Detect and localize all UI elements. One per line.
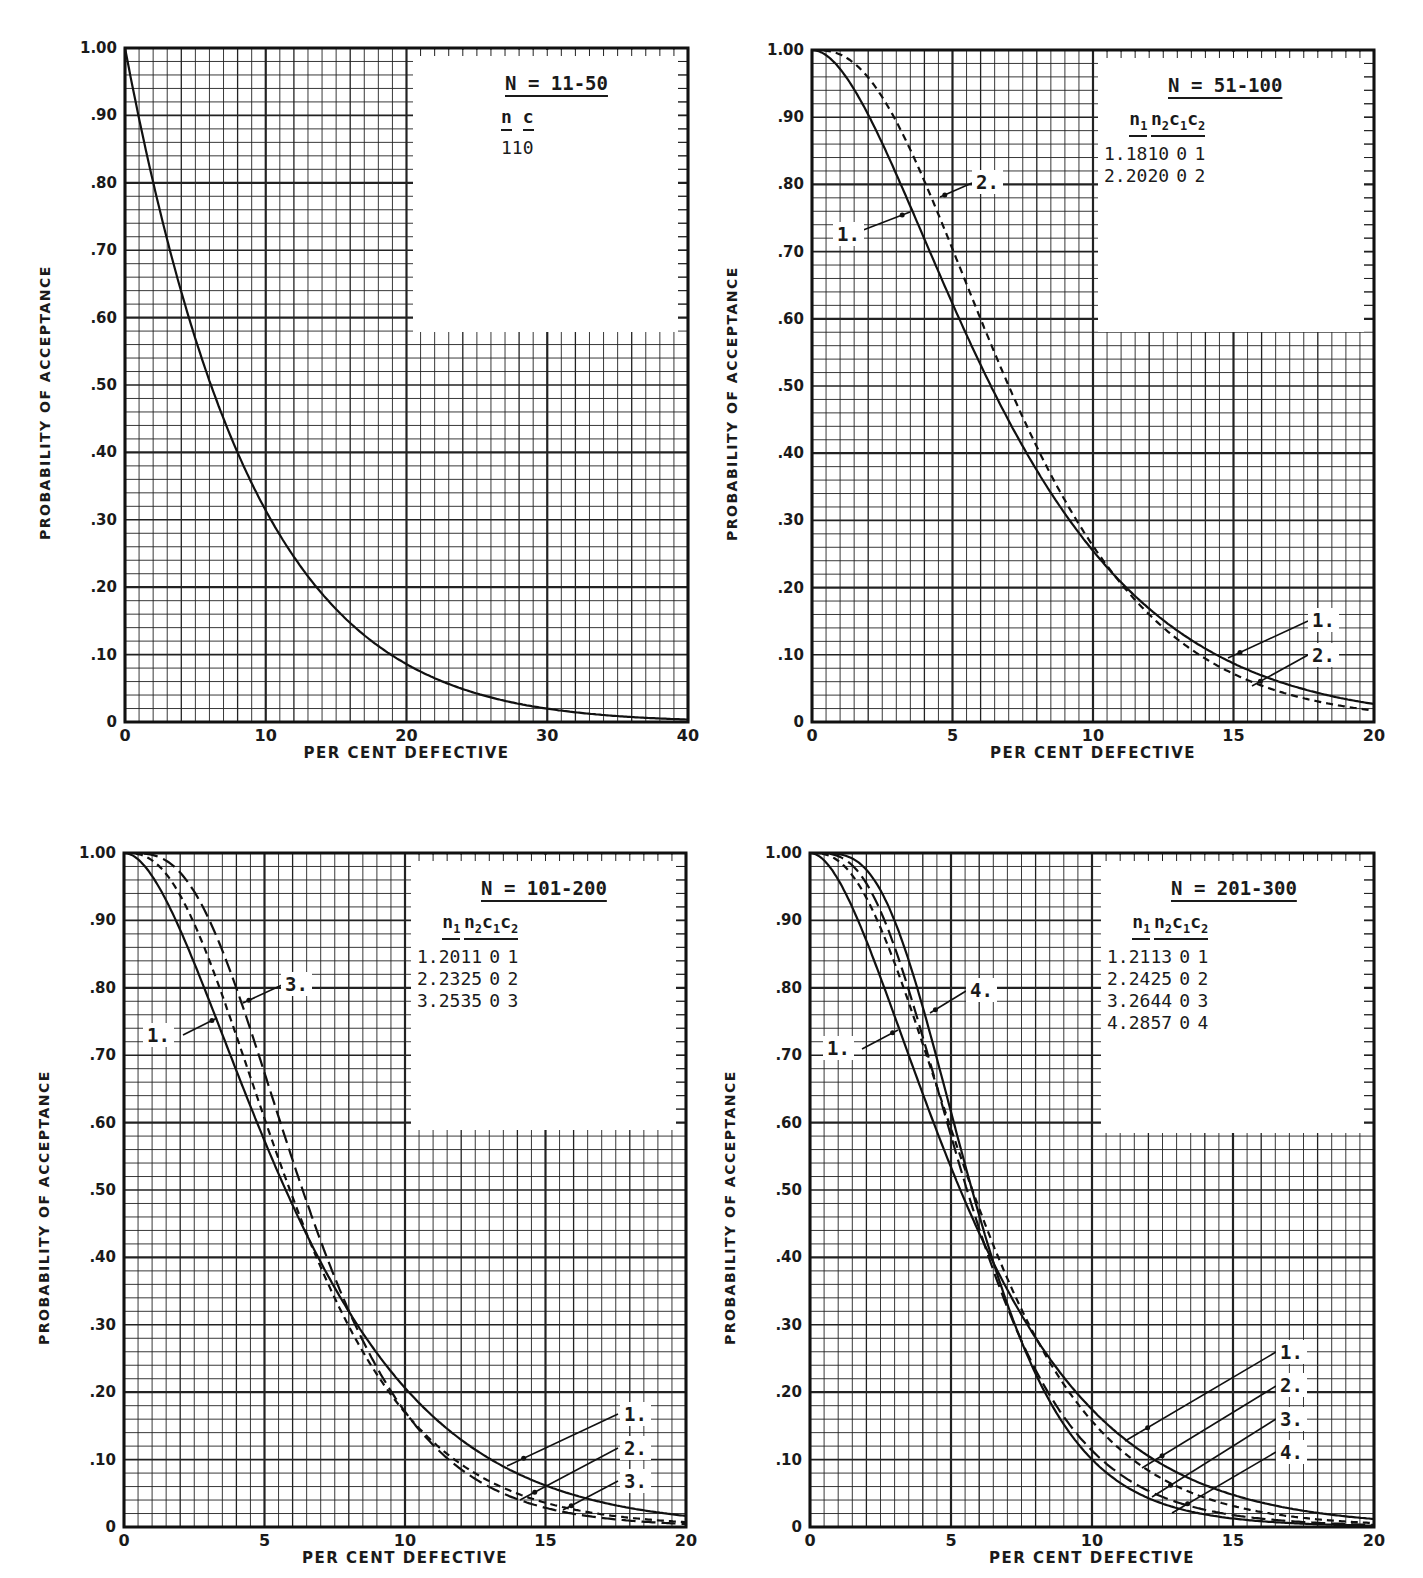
y-axis-label: PROBABILITY OF ACCEPTANCE: [722, 1070, 738, 1345]
plan-table-row: 2.242502: [1107, 968, 1208, 990]
x-tick-label: 10: [1072, 1531, 1112, 1550]
x-tick-label: 5: [931, 1531, 971, 1550]
plot-area: [0, 0, 1423, 1578]
arrowhead-icon: [1185, 1501, 1190, 1506]
y-tick-label: .30: [752, 1316, 802, 1334]
y-tick-label: .20: [752, 1383, 802, 1401]
plan-value-c1: 0: [1172, 990, 1190, 1012]
plan-value-c1: 0: [1172, 946, 1190, 968]
y-tick-label: .70: [752, 1046, 802, 1064]
column-header: c2: [1190, 911, 1208, 946]
y-tick-label: .60: [752, 1114, 802, 1132]
plan-number: 3.: [1107, 990, 1129, 1012]
y-tick-label: .80: [752, 979, 802, 997]
arrowhead-icon: [890, 1030, 895, 1035]
column-header: n2: [1150, 911, 1172, 946]
y-tick-label: .10: [752, 1451, 802, 1469]
plan-table-row: 4.285704: [1107, 1012, 1208, 1034]
plan-value-c2: 2: [1190, 968, 1208, 990]
curve-label: 4.: [1276, 1440, 1307, 1464]
plan-value-n2: 44: [1150, 990, 1172, 1012]
curve-label: 1.: [1276, 1340, 1307, 1364]
y-tick-label: .50: [752, 1181, 802, 1199]
plan-number: 1.: [1107, 946, 1129, 968]
plan-value-c1: 0: [1172, 1012, 1190, 1034]
x-axis-label: PER CENT DEFECTIVE: [810, 1549, 1374, 1567]
legend-title: N = 201-300: [1171, 877, 1297, 899]
arrowhead-icon: [1160, 1453, 1165, 1458]
curve-label: 4.: [966, 978, 997, 1002]
y-tick-label: .40: [752, 1248, 802, 1266]
x-tick-label: 15: [1213, 1531, 1253, 1550]
arrowhead-icon: [1145, 1425, 1150, 1430]
plan-value-n2: 13: [1150, 946, 1172, 968]
plan-table: n1n2c1c21.2113012.2425023.2644034.285704: [1107, 911, 1208, 1034]
plan-value-n1: 28: [1129, 1012, 1151, 1034]
arrowhead-icon: [1168, 1483, 1173, 1488]
curve-label: 2.: [1276, 1373, 1307, 1397]
plan-value-n2: 25: [1150, 968, 1172, 990]
plan-value-n1: 26: [1129, 990, 1151, 1012]
plan-table-header: n1n2c1c2: [1107, 911, 1208, 946]
plan-number: 4.: [1107, 1012, 1129, 1034]
plan-table-row: 1.211301: [1107, 946, 1208, 968]
plan-value-c2: 3: [1190, 990, 1208, 1012]
column-header: n1: [1129, 911, 1151, 946]
plan-value-c1: 0: [1172, 968, 1190, 990]
y-tick-label: 1.00: [752, 844, 802, 862]
x-tick-label: 0: [790, 1531, 830, 1550]
plan-number: 2.: [1107, 968, 1129, 990]
plan-value-c2: 4: [1190, 1012, 1208, 1034]
arrowhead-icon: [933, 1007, 938, 1012]
plan-value-n1: 24: [1129, 968, 1151, 990]
curve-label: 3.: [1276, 1407, 1307, 1431]
curve-label: 1.: [823, 1036, 854, 1060]
plan-value-n2: 57: [1150, 1012, 1172, 1034]
y-tick-label: .90: [752, 911, 802, 929]
plan-table-row: 3.264403: [1107, 990, 1208, 1012]
plan-value-n1: 21: [1129, 946, 1151, 968]
x-tick-label: 20: [1354, 1531, 1394, 1550]
column-header: c1: [1172, 911, 1190, 946]
plan-value-c2: 1: [1190, 946, 1208, 968]
